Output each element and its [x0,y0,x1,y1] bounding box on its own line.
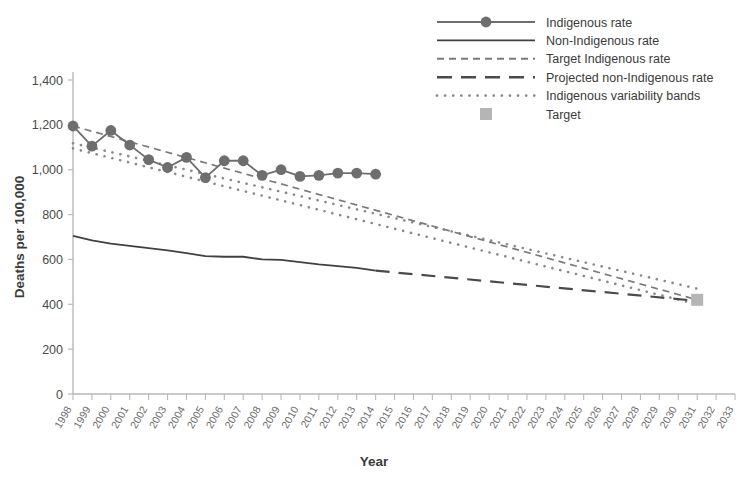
indigenous-rate-point [200,172,211,183]
legend-label: Target [546,108,581,122]
x-tick-label: 2028 [619,404,641,430]
indigenous-rate-point [351,168,362,179]
indigenous-rate-point [105,125,116,136]
target-indigenous-rate-line [73,126,697,300]
x-tick-label: 2020 [468,404,490,430]
x-tick-label: 2026 [581,404,603,430]
indigenous-rate-point [162,162,173,173]
x-tick-label: 2008 [241,404,263,430]
legend-label: Indigenous variability bands [546,89,700,103]
y-tick-label: 600 [42,253,63,267]
x-tick-label: 2019 [449,404,471,430]
x-tick-label: 2003 [146,404,168,430]
x-tick-label: 2018 [430,404,452,430]
x-tick-label: 2022 [506,404,528,430]
x-tick-label: 2027 [600,404,622,430]
x-tick-label: 2025 [562,404,584,430]
legend-item[interactable]: Non-Indigenous rate [437,34,659,48]
indigenous-rate-point [257,170,268,181]
indigenous-rate-point [68,121,79,132]
indigenous-rate-point [124,140,135,151]
non-indigenous-rate-line [73,236,376,271]
x-tick-label: 2021 [487,404,509,430]
indigenous-rate-point [87,141,98,152]
y-tick-label: 1,000 [32,163,63,177]
x-tick-label: 2006 [203,404,225,430]
x-tick-label: 2030 [657,404,679,430]
x-tick-label: 2011 [298,404,320,430]
x-tick-label: 2031 [676,404,698,430]
legend-item[interactable]: Projected non-Indigenous rate [437,71,714,85]
y-tick-label: 200 [42,343,63,357]
x-tick-label: 2014 [354,404,376,430]
indigenous-rate-point [370,169,381,180]
legend-square-marker [480,108,492,120]
x-tick-label: 2023 [525,404,547,430]
indigenous-rate-point [276,164,287,175]
x-tick-label: 2004 [165,404,187,430]
x-tick-label: 1998 [52,404,74,430]
indigenous-rate-point [295,171,306,182]
indigenous-rate-point [332,168,343,179]
indigenous-rate-point [143,154,154,165]
target-marker [691,294,703,306]
indigenous-rate-point [238,155,249,166]
y-axis-title: Deaths per 100,000 [12,176,27,298]
legend-label: Non-Indigenous rate [546,34,659,48]
legend-item[interactable]: Indigenous variability bands [437,89,700,103]
line-chart: 02004006008001,0001,2001,400Deaths per 1… [0,0,748,484]
x-axis-title: Year [360,454,389,469]
legend-item[interactable]: Target Indigenous rate [437,52,670,66]
indigenous-rate-point [313,170,324,181]
legend-label: Target Indigenous rate [546,52,670,66]
y-tick-label: 800 [42,208,63,222]
indigenous-rate-line [73,126,376,178]
x-tick-label: 2033 [714,404,736,430]
x-tick-label: 2010 [279,404,301,430]
y-tick-label: 1,200 [32,118,63,132]
y-tick-label: 400 [42,298,63,312]
x-tick-label: 2017 [411,404,433,430]
x-tick-label: 2001 [108,404,130,430]
legend-label: Indigenous rate [546,16,632,30]
x-tick-label: 2029 [638,404,660,430]
legend-item[interactable]: Indigenous rate [437,16,632,30]
x-tick-label: 2002 [127,404,149,430]
indigenous-rate-point [181,152,192,163]
chart-container: 02004006008001,0001,2001,400Deaths per 1… [0,0,748,484]
x-tick-label: 2016 [392,404,414,430]
x-tick-label: 2013 [335,404,357,430]
x-tick-label: 2024 [543,404,565,430]
x-tick-label: 2005 [184,404,206,430]
x-tick-label: 2012 [316,404,338,430]
legend-circle-marker [481,17,492,28]
x-tick-label: 2000 [89,404,111,430]
indigenous-rate-point [219,155,230,166]
y-tick-label: 0 [56,388,63,402]
x-tick-label: 1999 [71,404,93,430]
projected-non-indigenous-line [376,271,698,301]
legend-label: Projected non-Indigenous rate [546,71,714,85]
legend-item[interactable]: Target [480,108,581,122]
x-tick-label: 2032 [695,404,717,430]
y-tick-label: 1,400 [32,74,63,88]
x-tick-label: 2009 [260,404,282,430]
x-tick-label: 2015 [373,404,395,430]
x-tick-label: 2007 [222,404,244,430]
